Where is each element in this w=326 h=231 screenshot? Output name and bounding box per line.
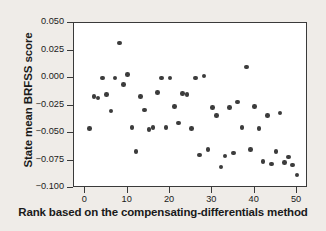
data-point <box>155 90 160 95</box>
data-point <box>109 109 114 114</box>
data-point <box>257 126 262 131</box>
data-point <box>261 159 266 164</box>
data-point <box>117 41 122 46</box>
x-tick-mark <box>296 187 297 193</box>
data-point <box>269 162 274 167</box>
data-point <box>134 149 139 154</box>
data-point <box>176 121 181 126</box>
data-point <box>286 155 291 160</box>
x-tick-mark <box>211 187 212 193</box>
data-point <box>138 94 143 99</box>
data-point <box>142 108 147 113</box>
x-tick-label: 0 <box>66 194 102 204</box>
data-point <box>104 92 109 97</box>
data-point <box>100 76 105 81</box>
data-point <box>240 125 245 130</box>
data-point <box>125 72 130 77</box>
data-point <box>219 165 224 170</box>
data-points-layer <box>74 23 306 186</box>
data-point <box>172 104 177 109</box>
data-point <box>206 147 211 152</box>
data-point <box>295 173 300 178</box>
x-tick-mark <box>127 187 128 193</box>
y-tick-mark <box>67 187 73 188</box>
data-point <box>130 125 135 130</box>
x-tick-label: 20 <box>151 194 187 204</box>
x-tick-label: 30 <box>193 194 229 204</box>
y-tick-label: 0.000 <box>24 71 64 81</box>
data-point <box>210 105 215 110</box>
x-tick-mark <box>84 187 85 193</box>
data-point <box>168 76 173 81</box>
y-tick-label: −0.050 <box>24 126 64 136</box>
data-point <box>121 82 126 87</box>
data-point <box>223 154 228 159</box>
data-point <box>278 111 283 116</box>
data-point <box>189 126 194 131</box>
y-tick-label: −0.100 <box>24 181 64 191</box>
x-tick-label: 50 <box>278 194 314 204</box>
data-point <box>151 125 156 130</box>
data-point <box>282 160 287 165</box>
data-point <box>235 100 240 105</box>
y-tick-label: 0.050 <box>24 16 64 26</box>
data-point <box>227 105 232 110</box>
data-point <box>96 96 101 101</box>
data-point <box>244 65 249 70</box>
x-tick-label: 10 <box>109 194 145 204</box>
data-point <box>185 92 190 97</box>
data-point <box>265 113 270 118</box>
data-point <box>202 74 207 79</box>
x-tick-label: 40 <box>236 194 272 204</box>
x-axis-label: Rank based on the compensating-different… <box>0 206 326 218</box>
data-point <box>159 76 164 81</box>
x-tick-mark <box>169 187 170 193</box>
data-point <box>193 76 198 81</box>
data-point <box>113 76 118 81</box>
scatter-chart-figure: State mean BRFSS score 0.0500.0250.000−0… <box>0 0 326 231</box>
plot-area <box>73 22 307 187</box>
y-tick-label: −0.025 <box>24 99 64 109</box>
data-point <box>290 163 295 168</box>
y-tick-label: 0.025 <box>24 44 64 54</box>
data-point <box>87 126 92 131</box>
data-point <box>214 113 219 118</box>
data-point <box>164 125 169 130</box>
y-tick-label: −0.075 <box>24 154 64 164</box>
x-tick-mark <box>254 187 255 193</box>
data-point <box>252 104 257 109</box>
data-point <box>274 149 279 154</box>
data-point <box>248 147 253 152</box>
data-point <box>231 151 236 156</box>
data-point <box>197 153 202 158</box>
